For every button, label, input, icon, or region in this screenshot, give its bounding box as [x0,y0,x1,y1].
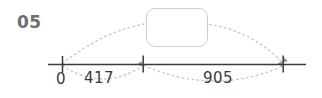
arc-total-right [210,25,283,63]
answer-input-value [147,9,207,46]
diagram-canvas: 05 0 417 905 [0,0,322,98]
answer-input-box[interactable] [146,8,208,47]
axis-label-zero: 0 [56,70,66,88]
arc-total-left [63,24,148,64]
jump-label-first: 417 [84,69,114,87]
jump-label-second: 905 [203,69,233,87]
